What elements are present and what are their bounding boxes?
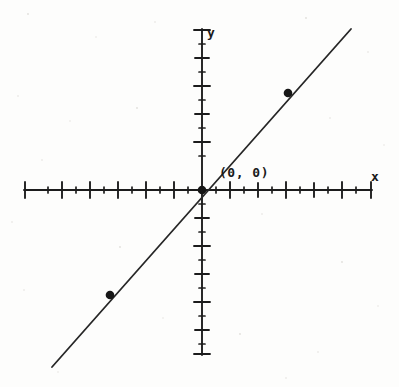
point-lower-left: [106, 291, 115, 300]
x-axis-label: x: [371, 170, 379, 183]
origin-coordinate-label: (0, 0): [219, 165, 269, 180]
point-upper-right: [284, 89, 293, 98]
coordinate-plane-figure: y x (0, 0): [0, 0, 399, 387]
y-axis-label: y: [207, 26, 215, 39]
marked-points: [106, 89, 293, 300]
point-origin: [198, 186, 207, 195]
figure-canvas: [0, 0, 399, 387]
